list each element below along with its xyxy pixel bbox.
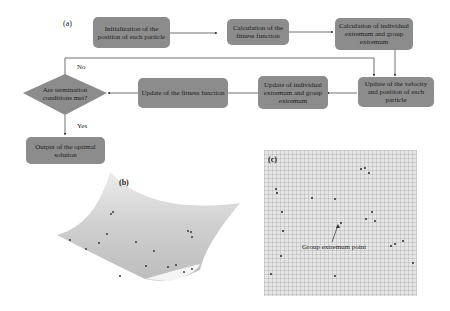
panel-c-grid: (c) Group extremum point bbox=[264, 150, 417, 296]
annotation-arrow bbox=[264, 150, 417, 296]
group-extremum-label: Group extremum point bbox=[302, 243, 366, 251]
panel-b-label: (b) bbox=[119, 178, 129, 187]
